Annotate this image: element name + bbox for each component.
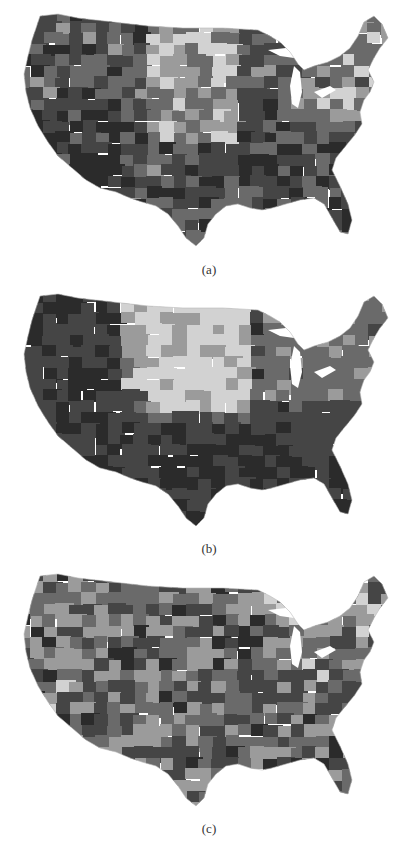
panel-label-a: (a) (0, 262, 418, 278)
panel-label-b: (b) (0, 541, 418, 557)
map-regions (18, 12, 406, 252)
panel-label-c: (c) (0, 821, 418, 837)
map-regions (18, 572, 406, 812)
us-choropleth-map-b (18, 292, 406, 532)
us-choropleth-map-c (18, 572, 406, 812)
us-choropleth-map-a (18, 12, 406, 252)
map-regions (18, 292, 406, 532)
